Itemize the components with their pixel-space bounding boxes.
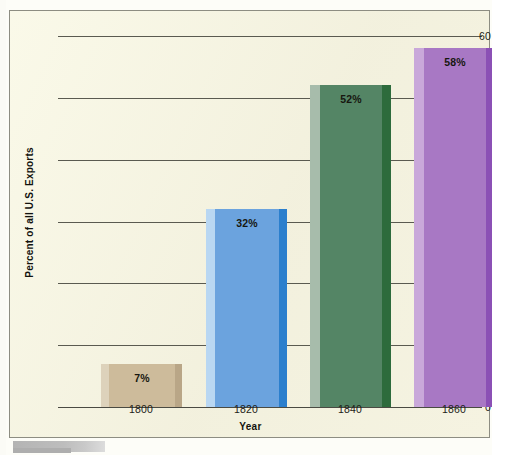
bar-1840[interactable]: 52% xyxy=(310,85,391,407)
ytick-label-60: 60 xyxy=(449,30,491,42)
bar-chart-plot-area: 60 50 40 30 20 10 0 7% 32% xyxy=(10,11,491,439)
bar-1860-body: 58% xyxy=(424,48,486,407)
y-axis-title: Percent of all U.S. Exports xyxy=(24,108,35,318)
scan-artifact-strip-secondary xyxy=(13,448,71,453)
bar-1860-highlight-edge xyxy=(414,48,424,407)
bar-1820-value-label: 32% xyxy=(215,217,279,229)
bar-1820-body: 32% xyxy=(215,209,279,407)
xtick-label-1860: 1860 xyxy=(419,403,489,415)
bar-1800-body: 7% xyxy=(109,364,175,407)
gridline-60 xyxy=(58,36,482,37)
bar-1820[interactable]: 32% xyxy=(206,209,287,407)
bar-1860-value-label: 58% xyxy=(424,56,486,68)
x-axis-title: Year xyxy=(10,421,491,432)
bar-1800[interactable]: 7% xyxy=(101,364,182,407)
xtick-label-1800: 1800 xyxy=(106,403,176,415)
bar-1800-value-label: 7% xyxy=(109,372,175,384)
chart-frame: 60 50 40 30 20 10 0 7% 32% xyxy=(9,10,490,438)
bar-1820-shadow-edge xyxy=(279,209,287,407)
scanned-page: 60 50 40 30 20 10 0 7% 32% xyxy=(0,0,506,455)
bar-1820-highlight-edge xyxy=(206,209,215,407)
bar-1860[interactable]: 58% xyxy=(414,48,495,407)
bar-1840-shadow-edge xyxy=(382,85,391,407)
bar-1800-highlight-edge xyxy=(101,364,109,407)
bar-1840-body: 52% xyxy=(320,85,382,407)
bar-1840-highlight-edge xyxy=(310,85,320,407)
page-right-margin xyxy=(492,0,506,455)
xtick-label-1840: 1840 xyxy=(315,403,385,415)
xtick-label-1820: 1820 xyxy=(211,403,281,415)
page-left-margin xyxy=(0,0,6,455)
bar-1800-shadow-edge xyxy=(175,364,182,407)
bar-1840-value-label: 52% xyxy=(320,93,382,105)
